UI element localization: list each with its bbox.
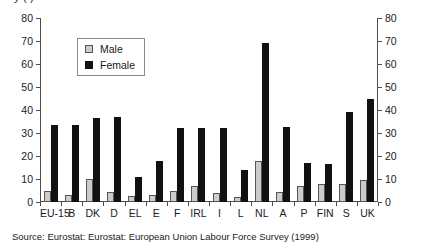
chart-title-clipped: y ( ): [14, 0, 34, 3]
x-tick-3: [103, 202, 104, 206]
legend-swatch-male-icon: [85, 45, 93, 53]
bar-group-eu-15: EU-15: [40, 18, 61, 202]
x-axis-label-p: P: [294, 208, 315, 219]
bar-female-nl: [262, 43, 269, 202]
bar-female-s: [346, 112, 353, 202]
y-tick-r-50: [378, 87, 382, 88]
bar-male-el: [128, 196, 135, 202]
y-axis-label-l-0: 0: [27, 197, 33, 208]
x-tick-4: [125, 202, 126, 206]
bar-group-fin: FIN: [315, 18, 336, 202]
bar-male-uk: [360, 180, 367, 202]
bar-male-d: [107, 192, 114, 202]
y-axis-label-l-60: 60: [21, 59, 33, 70]
x-tick-5: [146, 202, 147, 206]
y-tick-r-40: [378, 110, 382, 111]
y-axis-label-l-30: 30: [21, 128, 33, 139]
y-axis-label-l-70: 70: [21, 36, 33, 47]
bar-male-eu-15: [44, 191, 51, 203]
y-axis-label-l-80: 80: [21, 13, 33, 24]
x-tick-1: [61, 202, 62, 206]
x-axis-label-a: A: [272, 208, 293, 219]
y-tick-r-70: [378, 41, 382, 42]
y-axis-label-r-50: 50: [385, 82, 397, 93]
bar-male-a: [276, 192, 283, 202]
bar-female-uk: [367, 99, 374, 203]
x-tick-end: [378, 202, 379, 206]
x-axis-label-f: F: [167, 208, 188, 219]
bar-male-i: [213, 193, 220, 202]
x-axis-label-el: EL: [125, 208, 146, 219]
x-tick-13: [315, 202, 316, 206]
x-tick-7: [188, 202, 189, 206]
bar-male-f: [170, 191, 177, 203]
bar-male-irl: [191, 186, 198, 202]
bar-male-e: [149, 195, 156, 202]
bar-group-uk: UK: [357, 18, 378, 202]
y-tick-r-80: [378, 18, 382, 19]
bar-female-el: [135, 177, 142, 202]
legend-item-male: Male: [85, 44, 135, 55]
x-axis-label-dk: DK: [82, 208, 103, 219]
bar-female-dk: [93, 118, 100, 202]
bar-group-irl: IRL: [188, 18, 209, 202]
bar-female-b: [72, 125, 79, 202]
y-tick-r-30: [378, 133, 382, 134]
x-tick-6: [167, 202, 168, 206]
x-axis-label-eu-15: EU-15: [40, 208, 61, 219]
x-axis-label-uk: UK: [357, 208, 378, 219]
legend-swatch-female-icon: [85, 61, 93, 69]
x-tick-10: [251, 202, 252, 206]
bar-group-e: E: [146, 18, 167, 202]
y-tick-r-10: [378, 179, 382, 180]
bar-female-l: [241, 170, 248, 202]
x-tick-14: [336, 202, 337, 206]
bar-male-l: [234, 197, 241, 202]
y-axis-label-r-80: 80: [385, 13, 397, 24]
bar-male-fin: [318, 184, 325, 202]
bar-male-p: [297, 186, 304, 202]
bar-female-fin: [325, 164, 332, 202]
y-axis-label-r-0: 0: [385, 197, 391, 208]
bar-female-a: [283, 127, 290, 202]
y-tick-r-60: [378, 64, 382, 65]
x-axis-label-l: L: [230, 208, 251, 219]
bar-female-i: [220, 128, 227, 202]
y-axis-label-r-30: 30: [385, 128, 397, 139]
legend-label-male: Male: [100, 44, 123, 55]
y-axis-label-r-70: 70: [385, 36, 397, 47]
legend-item-female: Female: [85, 60, 135, 71]
bar-female-d: [114, 117, 121, 202]
x-axis-label-b: B: [61, 208, 82, 219]
x-tick-0: [40, 202, 41, 206]
source-note: Source: Eurostat: Eurostat: European Uni…: [12, 231, 319, 242]
bar-male-dk: [86, 179, 93, 202]
chart-figure: y ( ) 0010102020303040405050606070708080…: [0, 0, 422, 252]
x-tick-12: [294, 202, 295, 206]
x-axis-label-nl: NL: [251, 208, 272, 219]
y-axis-label-r-40: 40: [385, 105, 397, 116]
bar-female-irl: [198, 128, 205, 202]
x-tick-11: [272, 202, 273, 206]
bar-male-b: [65, 195, 72, 202]
bar-female-eu-15: [51, 125, 58, 202]
bar-male-s: [339, 184, 346, 202]
bar-group-p: P: [294, 18, 315, 202]
legend-label-female: Female: [100, 60, 135, 71]
y-axis-label-l-20: 20: [21, 151, 33, 162]
x-tick-9: [230, 202, 231, 206]
bar-group-f: F: [167, 18, 188, 202]
x-axis-label-irl: IRL: [188, 208, 209, 219]
x-axis-label-e: E: [146, 208, 167, 219]
x-tick-15: [357, 202, 358, 206]
y-axis-label-r-20: 20: [385, 151, 397, 162]
x-axis-label-i: I: [209, 208, 230, 219]
y-axis-label-l-40: 40: [21, 105, 33, 116]
bar-female-e: [156, 161, 163, 202]
y-axis-label-l-50: 50: [21, 82, 33, 93]
bar-female-f: [177, 128, 184, 202]
x-axis-label-s: S: [336, 208, 357, 219]
chart-legend: Male Female: [77, 38, 145, 76]
y-axis-label-r-60: 60: [385, 59, 397, 70]
y-tick-r-20: [378, 156, 382, 157]
